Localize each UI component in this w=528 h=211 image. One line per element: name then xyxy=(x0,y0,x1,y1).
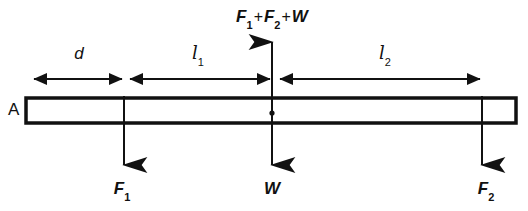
dimension-l1-label: l1 xyxy=(192,44,204,65)
reaction-label-plus-2: + xyxy=(280,8,291,25)
force-label-f2: F2 xyxy=(478,180,495,200)
dimension-d-label: d xyxy=(74,45,83,62)
reaction-label-f2-subscript: 2 xyxy=(274,19,280,31)
reaction-label-f1-symbol: F xyxy=(236,7,246,26)
free-body-diagram: F1+F2+W d l1 l2 A F1 W F2 xyxy=(0,0,528,211)
reaction-force-label: F1+F2+W xyxy=(236,8,308,28)
force-label-f1: F1 xyxy=(114,180,131,200)
dimension-l1-text: l xyxy=(192,42,198,63)
dimension-l1-subscript: 1 xyxy=(198,56,204,68)
dimension-l2-label: l2 xyxy=(379,44,391,65)
dimension-l2-text: l xyxy=(379,42,385,63)
force-f2-subscript: 2 xyxy=(488,191,494,203)
dimension-d-text: d xyxy=(74,44,83,63)
force-label-w: W xyxy=(264,180,280,197)
reaction-label-f1-subscript: 1 xyxy=(247,19,253,31)
dimension-l2-subscript: 2 xyxy=(385,56,391,68)
support-point-a-text: A xyxy=(8,100,19,119)
reaction-label-plus-1: + xyxy=(253,8,264,25)
force-f1-symbol: F xyxy=(114,179,124,198)
reaction-label-f2-symbol: F xyxy=(264,7,274,26)
force-f2-symbol: F xyxy=(478,179,488,198)
force-f1-subscript: 1 xyxy=(124,191,130,203)
reaction-label-w-symbol: W xyxy=(292,7,308,26)
support-point-label-a: A xyxy=(8,101,19,118)
force-w-symbol: W xyxy=(264,179,280,198)
